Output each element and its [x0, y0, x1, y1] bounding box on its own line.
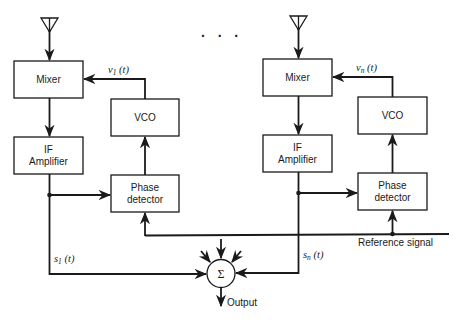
- mixer-label: Mixer: [285, 72, 310, 83]
- vco-block[interactable]: VCO: [358, 97, 427, 134]
- if-amp-label-1: IF: [44, 144, 53, 155]
- mixer-block[interactable]: Mixer: [263, 59, 332, 96]
- output-label: Output: [227, 297, 257, 308]
- phase-detector-block[interactable]: Phase detector: [358, 173, 427, 210]
- if-amp-label-2: Amplifier: [29, 156, 69, 167]
- lo-signal-label: v1 (t): [108, 64, 129, 77]
- vco-label: VCO: [382, 110, 404, 121]
- phase-det-label-2: detector: [127, 194, 164, 205]
- mixer-label: Mixer: [36, 74, 61, 85]
- output-signal-label: sn (t): [303, 249, 324, 262]
- phase-det-label-2: detector: [374, 192, 411, 203]
- phase-detector-block[interactable]: Phase detector: [111, 175, 179, 212]
- if-amplifier-block[interactable]: IF Amplifier: [14, 137, 83, 174]
- vco-block[interactable]: VCO: [111, 99, 179, 136]
- sigma-symbol: Σ: [218, 267, 225, 281]
- antenna-icon: [290, 16, 307, 30]
- diagram-canvas: · · · Mixer IF Amplifier VCO v1 (t): [0, 0, 461, 322]
- if-amp-label-1: IF: [293, 142, 302, 153]
- reference-signal-label: Reference signal: [358, 237, 433, 248]
- ellipsis: · · ·: [201, 28, 243, 44]
- if-amplifier-block[interactable]: IF Amplifier: [263, 135, 332, 172]
- phase-det-label-1: Phase: [378, 180, 407, 191]
- phase-det-label-1: Phase: [131, 182, 160, 193]
- branch-1: Mixer IF Amplifier VCO v1 (t) Phase dete…: [14, 18, 206, 275]
- mixer-block[interactable]: Mixer: [14, 61, 83, 98]
- lo-signal-label: vn (t): [356, 62, 377, 75]
- vco-label: VCO: [134, 112, 156, 123]
- antenna-icon: [41, 18, 58, 32]
- output-signal-label: s1 (t): [54, 253, 75, 266]
- reference-signal-bus: Reference signal: [145, 234, 449, 248]
- if-amp-label-2: Amplifier: [278, 154, 318, 165]
